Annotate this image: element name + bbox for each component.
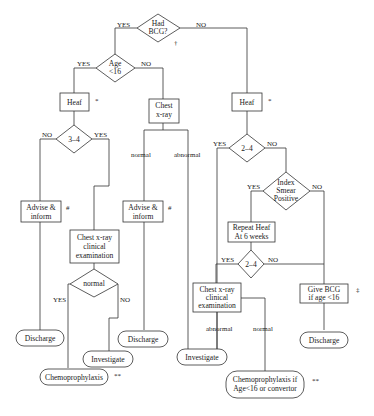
svg-text:Discharge: Discharge xyxy=(25,334,56,343)
svg-text:NO: NO xyxy=(312,183,322,191)
terminal-discharge-1: Discharge xyxy=(16,330,64,346)
svg-text:**: ** xyxy=(114,372,122,380)
svg-text:*: * xyxy=(95,97,99,105)
svg-text:Discharge: Discharge xyxy=(128,335,159,344)
svg-text:YES: YES xyxy=(117,21,130,29)
svg-text:x-ray: x-ray xyxy=(156,110,172,119)
svg-text:inform: inform xyxy=(31,212,52,221)
terminal-discharge-3: Discharge xyxy=(300,332,348,348)
svg-text:YES: YES xyxy=(247,183,260,191)
svg-text:Heaf: Heaf xyxy=(67,98,82,107)
svg-text:normal: normal xyxy=(253,325,273,333)
svg-text:normal: normal xyxy=(83,279,105,288)
svg-text:normal: normal xyxy=(131,151,151,159)
svg-text:NO: NO xyxy=(42,131,52,139)
process-heaf-right: Heaf * xyxy=(232,93,272,111)
process-advise-inform-2: Advise & inform # xyxy=(123,201,172,222)
svg-text:Age<16 or convertor: Age<16 or convertor xyxy=(233,384,297,393)
svg-text:if age <16: if age <16 xyxy=(309,293,340,302)
svg-text:‡: ‡ xyxy=(356,286,360,294)
decision-3-4: 3–4 xyxy=(56,125,92,153)
decision-2-4-bottom: 2–4 xyxy=(238,250,264,278)
process-give-bcg: Give BCG if age <16 ‡ xyxy=(300,284,360,303)
svg-text:examination: examination xyxy=(198,301,236,310)
svg-text:Chemoprophylaxis: Chemoprophylaxis xyxy=(45,373,103,382)
svg-text:NO: NO xyxy=(268,256,278,264)
decision-had-bcg: Had BCG? † xyxy=(137,14,180,47)
process-chest-xray-clinical-right: Chest x-ray clinical examination xyxy=(193,283,241,312)
decision-index-smear-positive: Index Smear Positive xyxy=(263,172,310,210)
svg-text:Positive: Positive xyxy=(274,194,299,203)
svg-text:YES: YES xyxy=(221,256,234,264)
svg-text:abnormal: abnormal xyxy=(206,325,232,333)
svg-text:inform: inform xyxy=(133,212,154,221)
svg-text:2–4: 2–4 xyxy=(245,260,257,269)
svg-text:Discharge: Discharge xyxy=(309,336,340,345)
terminal-chemoprophylaxis-2: Chemoprophylaxis if Age<16 or convertor … xyxy=(226,371,320,398)
terminal-investigate-1: Investigate xyxy=(83,351,133,367)
svg-text:NO: NO xyxy=(141,60,151,68)
svg-text:Chemoprophylaxis if: Chemoprophylaxis if xyxy=(233,375,298,384)
svg-text:Advise &: Advise & xyxy=(26,203,55,212)
svg-text:**: ** xyxy=(312,377,320,385)
terminal-chemoprophylaxis-1: Chemoprophylaxis ** xyxy=(40,369,122,385)
process-chest-xray-clinical-left: Chest x-ray clinical examination xyxy=(70,230,119,263)
svg-text:Chest: Chest xyxy=(155,101,173,110)
process-repeat-heaf: Repeat Heaf At 6 weeks xyxy=(228,222,275,242)
flowchart: Had BCG? † Age <16 Heaf * Chest x-ray He… xyxy=(0,0,374,416)
svg-text:2–4: 2–4 xyxy=(241,144,253,153)
decision-age-under-16: Age <16 xyxy=(96,54,135,82)
svg-text:abnormal: abnormal xyxy=(174,151,200,159)
svg-text:3–4: 3–4 xyxy=(68,135,80,144)
svg-text:YES: YES xyxy=(77,60,90,68)
svg-text:<16: <16 xyxy=(109,67,121,76)
decision-normal: normal xyxy=(70,269,118,297)
svg-text:YES: YES xyxy=(53,296,66,304)
terminal-investigate-2: Investigate xyxy=(177,349,227,365)
svg-text:Chest x-ray: Chest x-ray xyxy=(77,233,112,242)
svg-text:BCG?: BCG? xyxy=(149,27,169,36)
terminal-discharge-2: Discharge xyxy=(118,331,168,347)
svg-text:#: # xyxy=(168,204,172,212)
svg-text:At 6 weeks: At 6 weeks xyxy=(234,232,268,241)
decision-2-4-top: 2–4 xyxy=(229,134,265,162)
svg-text:Repeat Heaf: Repeat Heaf xyxy=(233,223,271,232)
process-chest-xray: Chest x-ray xyxy=(149,99,179,123)
svg-text:#: # xyxy=(66,204,70,212)
process-heaf-left: Heaf * xyxy=(60,93,99,111)
svg-text:Investigate: Investigate xyxy=(185,353,219,362)
svg-text:clinical: clinical xyxy=(83,242,105,251)
svg-text:examination: examination xyxy=(76,251,114,260)
svg-text:Investigate: Investigate xyxy=(91,355,125,364)
footnote-mark: † xyxy=(174,39,178,47)
svg-text:YES: YES xyxy=(213,140,226,148)
svg-text:*: * xyxy=(268,97,272,105)
process-advise-inform-1: Advise & inform # xyxy=(21,201,70,222)
svg-text:NO: NO xyxy=(120,296,130,304)
svg-text:Heaf: Heaf xyxy=(240,98,255,107)
svg-text:Advise &: Advise & xyxy=(128,203,157,212)
svg-text:YES: YES xyxy=(94,131,107,139)
svg-text:NO: NO xyxy=(196,21,206,29)
svg-text:NO: NO xyxy=(267,140,277,148)
